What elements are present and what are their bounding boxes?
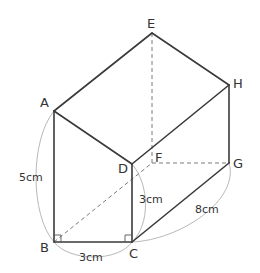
hidden-edge-bf — [54, 163, 152, 242]
dimension-label-bc: 3cm — [79, 251, 103, 264]
vertex-label-e: E — [147, 16, 155, 31]
vertex-label-c: C — [129, 246, 138, 261]
dimension-label-cd: 3cm — [139, 193, 163, 206]
edge-dh — [132, 85, 229, 164]
vertex-label-f: F — [155, 150, 162, 165]
dimension-label-cg: 8cm — [195, 203, 219, 216]
vertex-label-b: B — [40, 240, 49, 255]
edge-ae — [54, 33, 152, 111]
dimension-label-ab: 5cm — [19, 171, 43, 184]
vertex-label-g: G — [233, 156, 243, 171]
vertex-label-h: H — [233, 76, 243, 91]
right-angle-marker-c — [125, 235, 132, 242]
vertex-label-d: D — [118, 161, 128, 176]
vertex-label-a: A — [40, 95, 49, 110]
triangular-prism-diagram: A B C D E F G H 5cm 3cm 3cm 8cm — [0, 0, 260, 273]
edge-eh — [152, 33, 229, 85]
edge-ad — [54, 111, 132, 164]
